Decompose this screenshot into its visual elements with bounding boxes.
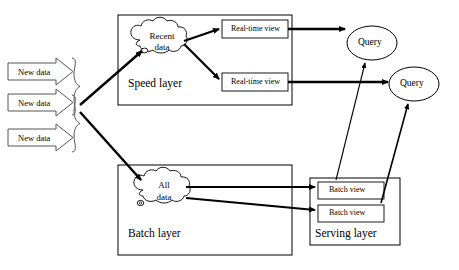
real-time-view-label-2: Real-time view (231, 78, 280, 86)
new-data-label-3: New data (18, 134, 50, 143)
batch-layer-label: Batch layer (128, 228, 181, 240)
query-label-2: Query (400, 79, 424, 89)
new-data-label-1: New data (18, 68, 50, 77)
new-data-label-2: New data (18, 99, 50, 108)
recent-data-label-line1: Recent (143, 31, 181, 42)
all-data-label-line2: data (147, 192, 181, 203)
query-label-1: Query (358, 38, 382, 48)
batch-view-label-1: Batch view (329, 186, 365, 194)
diagram-canvas (0, 0, 459, 270)
lambda-architecture-diagram: New data New data New data Recent data S… (0, 0, 459, 270)
serving-layer-label: Serving layer (315, 228, 377, 240)
all-data-label-line1: All (147, 180, 181, 191)
edge-batchview-1-to-query-1 (336, 63, 365, 180)
recent-data-label-line2: data (143, 42, 181, 53)
edge-inputs-to-all-data (80, 112, 141, 180)
batch-view-label-2: Batch view (329, 209, 365, 217)
speed-layer-label: Speed layer (128, 78, 182, 90)
real-time-view-label-1: Real-time view (231, 25, 280, 33)
